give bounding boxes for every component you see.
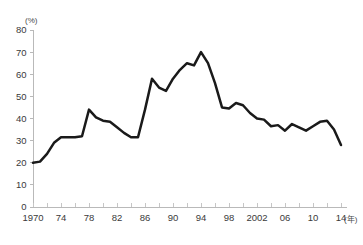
y-axis-tick-label: 80 [16,24,27,35]
x-axis-unit-label: (年) [344,214,358,224]
y-axis-group: 01020304050607080 [16,24,33,212]
chart-figure: 01020304050607080 1970747882869094982002… [0,0,363,245]
x-axis-tick-label: 1970 [22,212,43,223]
y-axis-tick-label: 60 [16,69,27,80]
y-axis-tick-label: 10 [16,179,27,190]
x-axis-tick-label: 06 [280,212,291,223]
x-axis-tick-label: 74 [56,212,67,223]
x-axis-tick-label: 82 [112,212,123,223]
plot-area [33,52,341,163]
x-axis-tick-label: 90 [168,212,179,223]
y-axis-tick-label: 20 [16,157,27,168]
x-axis-tick-label: 2002 [246,212,267,223]
x-axis-tick-label: 98 [224,212,235,223]
y-axis-tick-label: 0 [21,201,26,212]
y-axis-tick-label: 70 [16,47,27,58]
x-axis-tick-label: 10 [308,212,319,223]
x-axis-tick-label: 86 [140,212,151,223]
x-axis-group: 1970747882869094982002061014 [22,203,347,223]
y-axis-tick-label: 40 [16,113,27,124]
y-axis-unit-label: (%) [25,16,38,25]
data-series-line [33,52,341,163]
x-axis-tick-label: 94 [196,212,207,223]
line-chart-canvas: 01020304050607080 1970747882869094982002… [0,0,363,245]
x-axis-tick-label: 78 [84,212,95,223]
y-axis-tick-label: 30 [16,135,27,146]
y-axis-tick-label: 50 [16,91,27,102]
